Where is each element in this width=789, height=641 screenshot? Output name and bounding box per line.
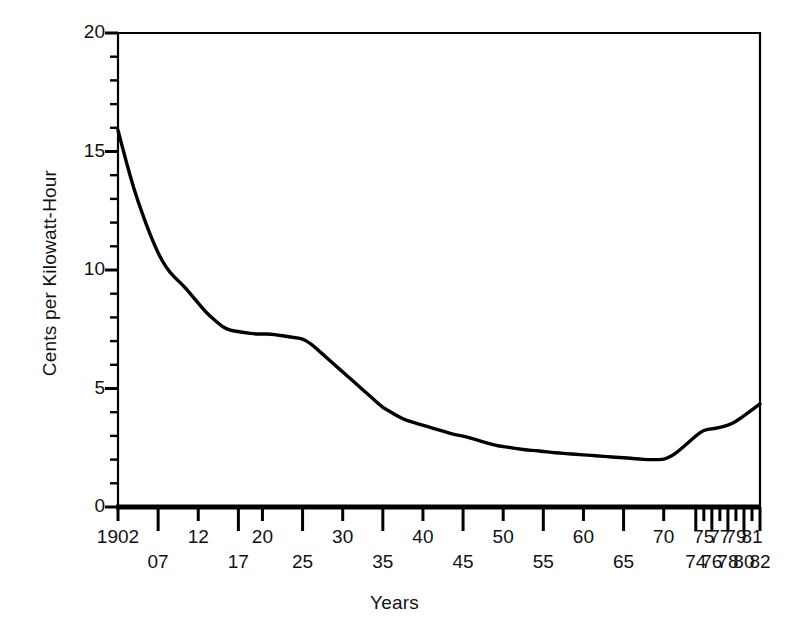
x-tick-label: 60 <box>553 526 613 548</box>
x-axis-title: Years <box>0 592 789 614</box>
y-tick-label: 15 <box>55 140 105 162</box>
x-tick-label: 25 <box>273 551 333 573</box>
x-tick-label: 07 <box>128 551 188 573</box>
x-tick-label: 20 <box>232 526 292 548</box>
x-tick-label: 1902 <box>88 526 148 548</box>
y-tick-label: 10 <box>55 258 105 280</box>
y-axis-ticks <box>105 33 118 507</box>
x-tick-label: 17 <box>208 551 268 573</box>
x-tick-label: 40 <box>393 526 453 548</box>
x-tick-label: 12 <box>168 526 228 548</box>
x-tick-label: 82 <box>730 551 789 573</box>
y-tick-label: 20 <box>55 21 105 43</box>
x-tick-label: 30 <box>313 526 373 548</box>
x-tick-label: 35 <box>353 551 413 573</box>
chart-figure: Cents per Kilowatt-Hour Years 05101520 1… <box>0 0 789 641</box>
x-tick-label: 45 <box>433 551 493 573</box>
x-tick-label: 50 <box>473 526 533 548</box>
y-tick-label: 5 <box>55 377 105 399</box>
plot-frame <box>116 33 760 507</box>
x-tick-label: 55 <box>513 551 573 573</box>
data-series-group <box>118 130 760 459</box>
x-tick-label: 65 <box>594 551 654 573</box>
y-tick-label: 0 <box>55 495 105 517</box>
x-tick-label: 81 <box>722 526 782 548</box>
